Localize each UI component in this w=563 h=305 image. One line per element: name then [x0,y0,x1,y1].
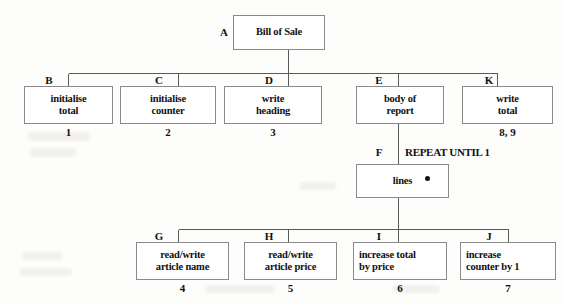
node-line: total [59,105,78,118]
iteration-marker-icon [425,176,430,181]
node-line: lines [393,175,412,188]
node-box-body-of-report[interactable]: body of report [356,86,444,124]
node-seq-d: 3 [224,126,322,138]
node-line: read/write [160,249,204,262]
node-seq-b: 1 [24,126,113,138]
node-box-write-heading[interactable]: write heading [224,86,322,124]
node-letter-b: B [41,74,57,86]
node-line: total [498,105,517,118]
repeat-until-annotation: REPEAT UNTIL 1 [405,146,490,158]
node-box-increase-total-by-price[interactable]: increase total by price [353,242,447,280]
node-seq-j: 7 [460,282,556,294]
node-letter-k: K [481,74,497,86]
node-line: write [496,93,518,106]
node-letter-a: A [216,26,232,38]
node-line: counter [151,105,184,118]
node-line: counter by 1 [466,261,519,274]
node-line: initialise [51,93,87,106]
node-box-write-total[interactable]: write total [462,86,553,124]
node-letter-g: G [151,230,167,242]
node-line: by price [359,261,394,274]
node-line: body of [384,93,416,106]
node-seq-g: 4 [136,282,229,294]
node-letter-d: D [261,74,277,86]
node-line: article name [156,261,209,274]
node-line: Bill of Sale [256,26,302,39]
node-seq-i: 6 [353,282,447,294]
node-box-lines[interactable]: lines [356,164,449,198]
node-line: heading [256,105,290,118]
node-seq-h: 5 [244,282,337,294]
node-letter-h: H [261,230,277,242]
node-box-read-write-article-name[interactable]: read/write article name [136,242,229,280]
node-line: increase [466,249,501,262]
node-line: write [262,93,284,106]
node-box-bill-of-sale[interactable]: Bill of Sale [233,15,325,50]
node-box-read-write-article-price[interactable]: read/write article price [244,242,337,280]
node-letter-f: F [371,146,387,158]
node-letter-c: C [151,74,167,86]
node-line: read/write [268,249,312,262]
node-letter-i: I [371,230,387,242]
node-box-increase-counter-by-1[interactable]: increase counter by 1 [460,242,556,280]
node-seq-k: 8, 9 [462,126,553,138]
node-letter-e: E [371,74,387,86]
structure-chart: A Bill of Sale B initialise total 1 C in… [0,0,563,305]
node-line: report [386,105,413,118]
node-line: initialise [150,93,186,106]
node-letter-j: J [481,230,497,242]
node-box-initialise-counter[interactable]: initialise counter [120,86,216,124]
node-seq-c: 2 [120,126,216,138]
node-line: article price [265,261,316,274]
node-box-initialise-total[interactable]: initialise total [24,86,113,124]
node-line: increase total [359,249,416,262]
